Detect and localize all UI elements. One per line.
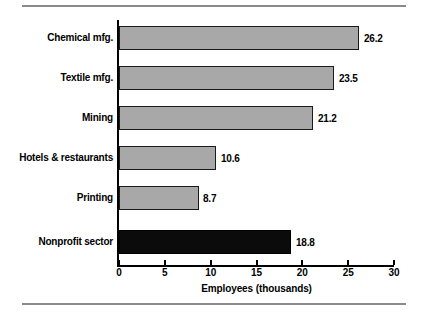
category-label-mining: Mining	[82, 106, 113, 130]
category-label-textile-mfg: Textile mfg.	[61, 66, 113, 90]
x-tick-label-25: 25	[343, 267, 354, 278]
x-tick-mark-5	[164, 260, 166, 265]
x-tick-label-30: 30	[388, 267, 399, 278]
x-tick-label-5: 5	[162, 267, 168, 278]
bar-value-mining: 21.2	[318, 113, 337, 124]
x-tick-label-10: 10	[205, 267, 216, 278]
x-tick-mark-25	[347, 260, 349, 265]
bar-value-nonprofit-sector: 18.8	[296, 237, 315, 248]
bar-row-printing: 8.7	[119, 186, 394, 210]
category-axis-labels: Chemical mfg. Textile mfg. Mining Hotels…	[0, 20, 113, 265]
bar-row-mining: 21.2	[119, 106, 394, 130]
bar-nonprofit-sector[interactable]	[119, 230, 291, 254]
x-axis-title: Employees (thousands)	[119, 283, 394, 294]
bar-textile-mfg[interactable]	[119, 66, 334, 90]
bar-value-printing: 8.7	[203, 193, 216, 204]
x-tick-mark-10	[210, 260, 212, 265]
bar-value-textile-mfg: 23.5	[339, 73, 358, 84]
bar-mining[interactable]	[119, 106, 313, 130]
bar-chart-figure: Chemical mfg. Textile mfg. Mining Hotels…	[0, 0, 429, 312]
bar-row-textile-mfg: 23.5	[119, 66, 394, 90]
x-tick-mark-30	[393, 260, 395, 265]
bar-row-chemical-mfg: 26.2	[119, 26, 394, 50]
bar-hotels-restaurants[interactable]	[119, 146, 216, 170]
page-rule-top	[22, 5, 406, 7]
x-tick-label-20: 20	[297, 267, 308, 278]
category-label-printing: Printing	[77, 186, 113, 210]
x-tick-mark-20	[301, 260, 303, 265]
bar-row-hotels-restaurants: 10.6	[119, 146, 394, 170]
x-tick-label-15: 15	[251, 267, 262, 278]
category-label-chemical-mfg: Chemical mfg.	[47, 26, 113, 50]
x-tick-mark-15	[256, 260, 258, 265]
plot-area: 26.2 23.5 21.2 10.6 8.7 18.8	[119, 20, 394, 265]
bar-value-hotels-restaurants: 10.6	[221, 153, 240, 164]
page-rule-bottom	[22, 303, 406, 305]
bar-value-chemical-mfg: 26.2	[364, 33, 383, 44]
x-tick-mark-0	[118, 260, 120, 265]
bar-chemical-mfg[interactable]	[119, 26, 359, 50]
x-tick-label-0: 0	[116, 267, 122, 278]
bar-series: 26.2 23.5 21.2 10.6 8.7 18.8	[119, 20, 394, 265]
bar-printing[interactable]	[119, 186, 199, 210]
category-label-hotels-restaurants: Hotels & restaurants	[19, 146, 113, 170]
bar-row-nonprofit-sector: 18.8	[119, 230, 394, 254]
category-label-nonprofit-sector: Nonprofit sector	[38, 230, 113, 254]
